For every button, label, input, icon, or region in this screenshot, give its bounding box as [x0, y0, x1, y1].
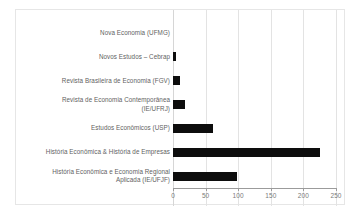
category-label: História Econômica e Economia Regional A…	[18, 168, 170, 184]
axis-tick	[303, 188, 304, 191]
axis-tick-label: 50	[202, 192, 209, 199]
bar[interactable]	[173, 100, 185, 109]
axis-tick	[271, 188, 272, 191]
gridline	[303, 10, 304, 206]
axis-tick-label: 250	[330, 192, 341, 199]
chart-frame: 050100150200250 Nova Economia (UFMG)Novo…	[15, 9, 345, 205]
axis-tick	[238, 188, 239, 191]
bar[interactable]	[173, 76, 180, 85]
bar[interactable]	[173, 124, 213, 133]
axis-tick-label: 150	[265, 192, 276, 199]
bar[interactable]	[173, 52, 176, 61]
plot-wrap: 050100150200250 Nova Economia (UFMG)Novo…	[16, 10, 346, 206]
axis-tick	[173, 188, 174, 191]
bar[interactable]	[173, 148, 320, 157]
category-label: Nova Economia (UFMG)	[18, 29, 170, 37]
gridline	[336, 10, 337, 206]
gridline	[271, 10, 272, 206]
bar[interactable]	[173, 172, 237, 181]
x-axis-line	[173, 188, 337, 189]
category-label: Revista de Economia Contemporânea (IE/UF…	[18, 96, 170, 112]
category-label: História Econômica & História de Empresa…	[18, 148, 170, 156]
axis-tick	[336, 188, 337, 191]
category-label: Estudos Econômicos (USP)	[18, 124, 170, 132]
axis-tick	[206, 188, 207, 191]
gridline	[238, 10, 239, 206]
axis-tick-label: 100	[233, 192, 244, 199]
category-label: Novos Estudos – Cebrap	[18, 53, 170, 61]
category-label: Revista Brasileira de Economia (FGV)	[18, 77, 170, 85]
axis-tick-label: 200	[298, 192, 309, 199]
axis-tick-label: 0	[171, 192, 175, 199]
